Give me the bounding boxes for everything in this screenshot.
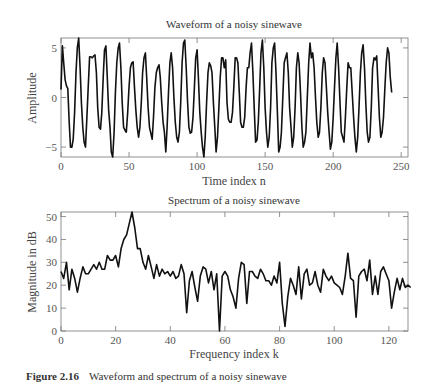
spectrum-line [61,212,411,331]
waveform-ylabel: Amplitude [25,72,39,123]
y-tick-label: 30 [46,256,58,268]
x-tick-label: 80 [274,334,286,346]
spectrum-ticks: 02040608010012001020304050 [46,211,408,346]
figure-caption-text: Waveform and spectrum of a noisy sinewav… [89,370,287,382]
y-tick-label: −5 [45,141,57,153]
y-tick-label: 20 [46,279,58,291]
y-tick-label: 40 [46,233,58,245]
y-tick-label: 0 [52,92,58,104]
x-tick-label: 150 [257,160,274,172]
figure-caption: Figure 2.16Waveform and spectrum of a no… [26,370,287,382]
x-tick-label: 40 [165,334,177,346]
spectrum-title: Spectrum of a noisy sinewave [168,194,300,206]
x-tick-label: 120 [381,334,398,346]
spectrum-ylabel: Magnitude in dB [25,231,39,312]
y-tick-label: 5 [52,42,58,54]
y-tick-label: 50 [46,211,58,223]
x-tick-label: 0 [58,334,64,346]
waveform-plot: Waveform of a noisy sinewave 05010015020… [25,18,410,188]
x-tick-label: 50 [124,160,136,172]
y-tick-label: 0 [52,325,58,337]
waveform-xlabel: Time index n [202,174,266,188]
x-tick-label: 60 [219,334,231,346]
waveform-line [61,38,392,157]
figure-canvas: Waveform of a noisy sinewave 05010015020… [0,0,427,386]
y-tick-label: 10 [46,302,58,314]
waveform-title: Waveform of a noisy sinewave [166,18,302,30]
x-tick-label: 100 [326,334,343,346]
x-tick-label: 0 [58,160,64,172]
spectrum-plot: Spectrum of a noisy sinewave 02040608010… [25,194,411,361]
x-tick-label: 200 [325,160,342,172]
figure-caption-label: Figure 2.16 [26,370,79,382]
x-tick-label: 20 [110,334,122,346]
x-tick-label: 250 [393,160,410,172]
spectrum-xlabel: Frequency index k [189,347,278,361]
x-tick-label: 100 [189,160,206,172]
